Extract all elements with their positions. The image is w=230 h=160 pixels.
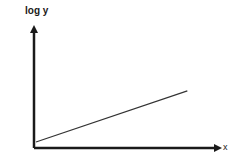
- chart-canvas: [0, 0, 230, 160]
- y-axis-label: log y: [25, 6, 48, 16]
- x-axis-label: x: [223, 143, 228, 152]
- data-line: [36, 91, 187, 142]
